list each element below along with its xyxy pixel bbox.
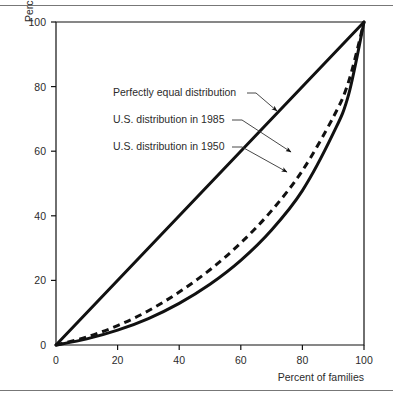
- lorenz-curve-chart: 100 80 60 40 20 0 0 20 40 60 80 100 Perc…: [0, 0, 393, 397]
- data-series-group: [56, 22, 364, 345]
- figure-panel: 100 80 60 40 20 0 0 20 40 60 80 100 Perc…: [0, 0, 393, 397]
- y-axis-ticks: [51, 22, 56, 280]
- y-tick-label-40: 40: [34, 210, 46, 222]
- x-tick-label-100: 100: [355, 354, 373, 366]
- annotation-label-us-distribution-1985: U.S. distribution in 1985: [113, 113, 225, 125]
- x-tick-label-60: 60: [235, 354, 247, 366]
- annotation-leaders: [232, 93, 291, 172]
- x-tick-label-0: 0: [53, 354, 59, 366]
- y-tick-label-0: 0: [40, 339, 46, 351]
- y-tick-label-60: 60: [34, 145, 46, 157]
- y-axis-title: Percent of income: [23, 0, 35, 22]
- annotation-label-us-distribution-1950: U.S. distribution in 1950: [113, 140, 225, 152]
- y-tick-label-80: 80: [34, 81, 46, 93]
- y-tick-label-20: 20: [34, 274, 46, 286]
- x-tick-label-40: 40: [173, 354, 185, 366]
- x-tick-label-80: 80: [297, 354, 309, 366]
- leader-line-perfectly-equal-distribution: [247, 93, 277, 111]
- annotation-label-perfectly-equal-distribution: Perfectly equal distribution: [113, 86, 236, 98]
- x-tick-label-20: 20: [112, 354, 124, 366]
- series-perfectly-equal-distribution: [56, 22, 364, 345]
- x-axis-ticks: [118, 345, 364, 350]
- x-axis-title: Percent of families: [278, 371, 364, 383]
